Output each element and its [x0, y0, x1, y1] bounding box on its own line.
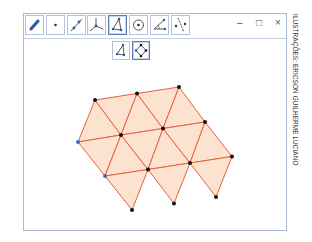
- vertex-point[interactable]: [214, 195, 218, 199]
- vertex-point[interactable]: [119, 133, 123, 137]
- triangle: [105, 170, 148, 211]
- vertex-point[interactable]: [103, 174, 107, 178]
- triangle: [190, 157, 232, 198]
- vertex-point[interactable]: [188, 161, 192, 165]
- vertex-point[interactable]: [161, 127, 165, 131]
- vertex-point[interactable]: [172, 202, 176, 206]
- triangle: [148, 163, 190, 204]
- triangle-tessellation-drawing: [0, 0, 312, 242]
- vertex-point[interactable]: [203, 120, 207, 124]
- vertex-point[interactable]: [76, 140, 80, 144]
- vertex-point[interactable]: [146, 168, 150, 172]
- vertex-point[interactable]: [130, 208, 134, 212]
- vertex-point[interactable]: [177, 85, 181, 89]
- vertex-point[interactable]: [230, 155, 234, 159]
- vertex-point[interactable]: [135, 92, 139, 96]
- vertex-point[interactable]: [93, 98, 97, 102]
- illustration-credit: ILUSTRAÇÕES: ERICSON GUILHERME LUCIANO: [292, 14, 299, 166]
